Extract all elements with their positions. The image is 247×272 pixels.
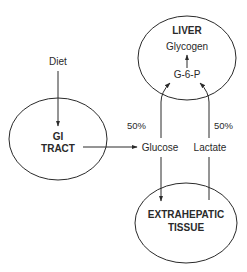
g6p-label: G-6-P [174,69,201,80]
gi-tract-line2: TRACT [41,143,75,154]
glucose-label: Glucose [142,142,179,153]
extrahepatic-line1: EXTRAHEPATIC [148,209,224,220]
liver-title: LIVER [172,25,202,36]
glucose-percent-label: 50% [127,120,147,131]
lactate-to-liver-arrow [200,83,209,138]
diet-label: Diet [49,56,67,67]
metabolism-diagram: LIVER Glycogen G-6-P Diet GI TRACT Gluco… [0,0,247,272]
diagram-canvas: LIVER Glycogen G-6-P Diet GI TRACT Gluco… [0,0,247,272]
gi-tract-line1: GI [53,131,64,142]
glucose-to-liver-arrow [161,83,170,138]
lactate-percent-label: 50% [214,120,234,131]
extrahepatic-line2: TISSUE [168,222,204,233]
glycogen-label: Glycogen [166,41,208,52]
lactate-label: Lactate [194,142,227,153]
